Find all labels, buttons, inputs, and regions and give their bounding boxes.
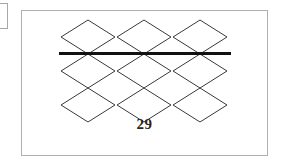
page-canvas: 29 (0, 0, 282, 167)
rhombus-row-middle (61, 54, 227, 88)
rhombus-r1c1 (61, 20, 115, 54)
rhombus-r2c2 (117, 54, 171, 88)
rhombus-lattice-drawing (22, 11, 269, 157)
rhombus-row-top (61, 20, 227, 54)
margin-box-fragment (0, 3, 8, 29)
rhombus-r2c3 (173, 54, 227, 88)
figure-frame: 29 (21, 10, 268, 156)
rhombus-r1c2 (117, 20, 171, 54)
figure-caption: 29 (22, 117, 267, 132)
rhombus-r1c3 (173, 20, 227, 54)
rhombus-r2c1 (61, 54, 115, 88)
